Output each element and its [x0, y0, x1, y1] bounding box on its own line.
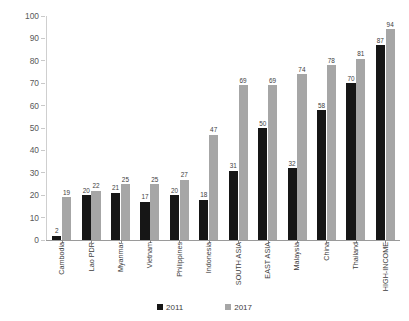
bar-group: 1725 [135, 16, 164, 240]
bar-2017-cambodia: 19 [62, 197, 71, 240]
x-axis-tick-label: SOUTH ASIA [235, 242, 243, 285]
y-axis-tick-label: 100 [25, 11, 39, 21]
bar-2011-south-asia: 31 [229, 171, 238, 240]
bar-chart: Share of rural households (%) 0102030405… [0, 0, 409, 321]
bar-2017-lao-pdr: 22 [91, 191, 100, 240]
bar-group: 7081 [341, 16, 370, 240]
y-axis-tick-mark [41, 38, 45, 39]
bar-group: 5069 [253, 16, 282, 240]
bar-value-label: 69 [269, 77, 276, 85]
bar-2017-east-asia: 69 [268, 85, 277, 240]
y-axis-tick-label: 30 [30, 168, 39, 178]
legend-label: 2017 [234, 303, 252, 312]
bar-value-label: 17 [141, 193, 148, 201]
x-axis-label-slot: SOUTH ASIA [224, 242, 253, 298]
x-axis-tick-label: Vietnam [146, 242, 154, 268]
y-axis-tick-mark [41, 217, 45, 218]
x-axis-line [46, 240, 400, 241]
x-axis-tick-label: Indonesia [205, 242, 213, 273]
bar-2017-indonesia: 47 [209, 135, 218, 240]
x-axis-tick-label: HIGH-INCOME [382, 242, 390, 291]
x-axis-label-slot: Malaysia [282, 242, 311, 298]
bar-2017-vietnam: 25 [150, 184, 159, 240]
legend-label: 2011 [166, 303, 183, 312]
bar-2011-cambodia: 2 [52, 236, 61, 240]
x-axis-tick-label: Malaysia [293, 242, 301, 270]
bar-value-label: 19 [63, 189, 70, 197]
bar-value-label: 47 [210, 126, 217, 134]
bar-value-label: 27 [181, 171, 188, 179]
bar-2011-thailand: 70 [346, 83, 355, 240]
bar-group: 5878 [312, 16, 341, 240]
bar-group: 3169 [224, 16, 253, 240]
x-axis-label-slot: Myanmar [106, 242, 135, 298]
y-axis-tick-mark [41, 105, 45, 106]
bar-group: 2022 [76, 16, 105, 240]
legend-item-2017[interactable]: 2017 [225, 303, 252, 312]
y-axis-tick-mark [41, 128, 45, 129]
y-axis-ticks: 0102030405060708090100 [0, 16, 47, 240]
x-axis-label-slot: Philippines [165, 242, 194, 298]
bar-2017-south-asia: 69 [239, 85, 248, 240]
x-axis-tick-label: Philippines [176, 242, 184, 277]
bar-value-label: 50 [259, 120, 266, 128]
bar-group: 1847 [194, 16, 223, 240]
bar-value-label: 74 [298, 66, 305, 74]
y-axis-tick-mark [41, 83, 45, 84]
bar-2017-thailand: 81 [356, 59, 365, 240]
x-axis-label-slot: Thailand [341, 242, 370, 298]
bar-value-label: 32 [289, 160, 296, 168]
bar-value-label: 81 [357, 50, 364, 58]
bar-2011-malaysia: 32 [288, 168, 297, 240]
bar-value-label: 94 [387, 21, 394, 29]
x-axis-tick-label: Lao PDR [88, 242, 96, 271]
y-axis-tick-mark [41, 150, 45, 151]
bar-2011-philippines: 20 [170, 195, 179, 240]
plot-area: 2192022212517252027184731695069327458787… [47, 16, 400, 240]
y-axis-tick-label: 0 [34, 235, 39, 245]
y-axis-tick-mark [41, 16, 45, 17]
bar-2011-high-income: 87 [376, 45, 385, 240]
bar-2017-philippines: 27 [180, 180, 189, 240]
x-axis-label-slot: Vietnam [135, 242, 164, 298]
y-axis-tick-mark [41, 240, 45, 241]
bar-2017-malaysia: 74 [297, 74, 306, 240]
y-axis-tick-mark [41, 172, 45, 173]
legend-swatch-icon [157, 304, 163, 310]
bar-value-label: 25 [122, 176, 129, 184]
y-axis-tick-mark [41, 60, 45, 61]
y-axis-tick-label: 70 [30, 78, 39, 88]
y-axis-tick-label: 50 [30, 123, 39, 133]
bar-group: 3274 [282, 16, 311, 240]
bar-value-label: 22 [92, 182, 99, 190]
x-axis-label-slot: Lao PDR [76, 242, 105, 298]
bar-value-label: 2 [55, 227, 59, 235]
chart-legend: 20112017 [0, 299, 409, 315]
bar-value-label: 87 [377, 37, 384, 45]
x-axis-label-slot: HIGH-INCOME [371, 242, 400, 298]
x-axis-tick-label: Cambodia [58, 242, 66, 275]
x-axis-tick-label: China [323, 242, 331, 261]
legend-swatch-icon [225, 304, 231, 310]
bar-2011-lao-pdr: 20 [82, 195, 91, 240]
bar-2017-high-income: 94 [386, 29, 395, 240]
bar-value-label: 25 [151, 176, 158, 184]
bar-group: 2125 [106, 16, 135, 240]
y-axis-tick-label: 60 [30, 101, 39, 111]
bar-value-label: 18 [200, 191, 207, 199]
legend-item-2011[interactable]: 2011 [157, 303, 183, 312]
x-axis-tick-label: Thailand [352, 242, 360, 270]
x-axis-label-slot: China [312, 242, 341, 298]
x-axis-tick-label: Myanmar [117, 242, 125, 272]
bar-value-label: 20 [83, 187, 90, 195]
y-axis-tick-label: 10 [30, 213, 39, 223]
bar-value-label: 69 [240, 77, 247, 85]
x-axis-tick-label: EAST ASIA [264, 242, 272, 279]
y-axis-tick-label: 40 [30, 145, 39, 155]
bar-2011-myanmar: 21 [111, 193, 120, 240]
bar-value-label: 20 [171, 187, 178, 195]
y-axis-tick-label: 90 [30, 33, 39, 43]
y-axis-tick-label: 80 [30, 56, 39, 66]
bar-2011-china: 58 [317, 110, 326, 240]
bar-value-label: 58 [318, 102, 325, 110]
